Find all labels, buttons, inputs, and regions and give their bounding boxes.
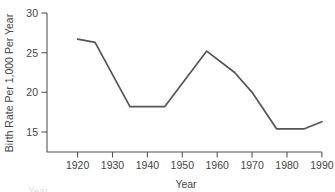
- x-tick-label-1940: 1940: [136, 159, 160, 171]
- line-chart-canvas: 30 25 20 15 1920 1930 1940 1950 1960 197…: [0, 0, 335, 192]
- y-tick-labels: 30 25 20 15: [26, 7, 38, 138]
- y-tick-label-30: 30: [26, 7, 38, 19]
- chart-figure: 30 25 20 15 1920 1930 1940 1950 1960 197…: [0, 0, 335, 192]
- x-tick-labels: 1920 1930 1940 1950 1960 1970 1980 1990: [66, 159, 334, 171]
- x-tick-label-1960: 1960: [206, 159, 230, 171]
- y-tick-label-20: 20: [26, 86, 38, 98]
- x-tick-label-1950: 1950: [171, 159, 195, 171]
- x-tick-label-1920: 1920: [66, 159, 90, 171]
- data-series-birth-rate: [78, 39, 322, 129]
- axis-spine: [47, 13, 322, 152]
- x-tick-label-1930: 1930: [101, 159, 125, 171]
- x-tick-label-1990: 1990: [310, 159, 334, 171]
- y-tick-label-25: 25: [26, 47, 38, 59]
- y-tick-label-15: 15: [26, 126, 38, 138]
- x-axis-title: Year: [175, 178, 197, 190]
- y-axis-title: Birth Rate Per 1,000 Per Year: [3, 13, 15, 152]
- x-tick-label-1970: 1970: [240, 159, 264, 171]
- y-tick-marks: [42, 13, 48, 132]
- x-tick-marks: [78, 152, 322, 158]
- x-tick-label-1980: 1980: [275, 159, 299, 171]
